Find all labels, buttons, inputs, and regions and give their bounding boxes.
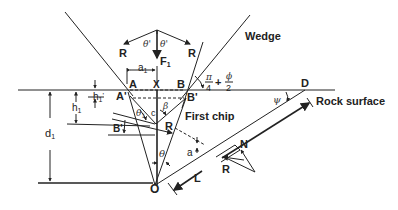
L-arrow-upper <box>222 103 309 158</box>
label-theta-prime-left: θ' <box>143 39 151 49</box>
label-B-prime: B' <box>187 91 198 103</box>
label-R-right: R <box>188 47 196 59</box>
label-wedge: Wedge <box>245 30 281 42</box>
label-B-prime-left: B' <box>113 123 123 134</box>
psi-arc <box>286 92 288 101</box>
label-R-plane: R <box>222 163 230 175</box>
label-theta-prime-right: θ' <box>160 39 168 49</box>
label-first-chip: First chip <box>185 110 235 122</box>
label-N: N <box>240 138 248 150</box>
label-d1: d1 <box>45 127 55 140</box>
label-a1: a1 <box>138 62 148 74</box>
label-theta: θ <box>159 148 165 159</box>
label-R-chip: R <box>165 120 173 132</box>
label-F1: F1 <box>160 55 171 68</box>
force-arrow-R-left <box>124 30 157 44</box>
label-A: A <box>129 78 137 90</box>
label-R-left: R <box>119 47 127 59</box>
line-A-O <box>128 92 155 185</box>
label-h1: h1 <box>72 102 82 114</box>
label-B: B <box>177 78 185 90</box>
rock-cutting-diagram: R R θ' θ' F1 a1 A X B A' B' Wedge π 4 + … <box>0 0 398 210</box>
label-h1-prime: h1' <box>93 91 104 103</box>
wedge-angle-arc <box>195 76 203 88</box>
formula-4: 4 <box>206 83 211 93</box>
L-end-tick-D <box>307 98 313 107</box>
label-X: X <box>153 79 160 90</box>
label-beta: β <box>162 101 168 111</box>
label-rock-surface: Rock surface <box>316 95 385 107</box>
label-psi: ψ <box>273 94 281 105</box>
formula-pi: π <box>205 72 213 82</box>
label-A-prime: A' <box>116 90 127 102</box>
formula-phi: ϕ <box>226 71 232 81</box>
theta-arrow-right <box>166 162 170 166</box>
label-theta1: θ1 <box>136 108 145 119</box>
label-D: D <box>301 77 309 89</box>
dashed-R-extension <box>175 128 205 145</box>
formula-plus: + <box>215 76 221 88</box>
label-c: c <box>151 108 156 118</box>
label-a: a <box>187 147 193 158</box>
formula-2: 2 <box>226 83 231 93</box>
label-O: O <box>150 182 159 196</box>
label-L: L <box>194 172 201 184</box>
